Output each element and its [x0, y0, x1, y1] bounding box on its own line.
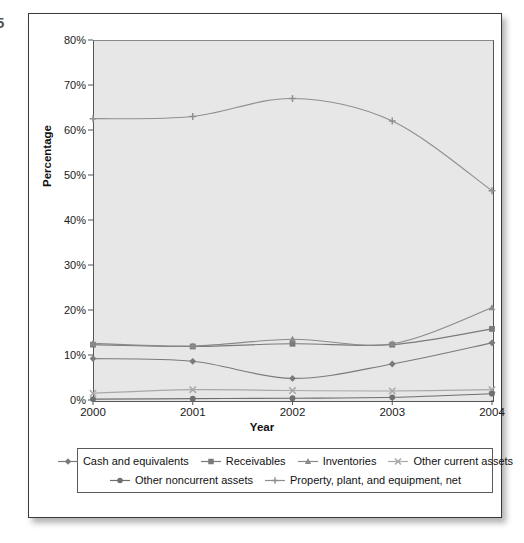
data-point-diamond: [289, 375, 296, 382]
series-3: [90, 386, 495, 396]
data-point-circle: [389, 394, 395, 400]
data-point-diamond: [65, 458, 71, 464]
legend-label: Other noncurrent assets: [135, 475, 253, 486]
data-point-circle: [489, 391, 495, 397]
series-line: [93, 343, 492, 379]
data-point-diamond: [489, 339, 496, 346]
legend-label: Inventories: [323, 456, 377, 467]
data-point-circle: [90, 396, 96, 402]
legend-label: Cash and equivalents: [83, 456, 189, 467]
data-point-circle: [117, 477, 123, 483]
legend-marker-circle-icon: [109, 475, 131, 486]
data-point-circle: [190, 396, 196, 402]
legend-label: Other current assets: [413, 456, 513, 467]
series-5: [90, 95, 496, 194]
data-point-plus: [90, 115, 97, 122]
legend-marker-square-icon: [200, 456, 222, 467]
legend-item: Other noncurrent assets: [109, 475, 253, 486]
legend-row-secondary: Other noncurrent assetsProperty, plant, …: [78, 471, 492, 490]
legend-label: Property, plant, and equipment, net: [290, 475, 461, 486]
data-point-diamond: [389, 361, 396, 368]
series-4: [90, 391, 495, 402]
chart-figure: 5 Percentage Year 0%10%20%30%40%50%60%70…: [0, 0, 524, 543]
data-point-square: [489, 326, 495, 332]
data-point-triangle: [489, 304, 496, 310]
data-point-plus: [189, 113, 196, 120]
legend-row-primary: Cash and equivalentsReceivablesInventori…: [78, 452, 492, 471]
data-point-plus: [289, 95, 296, 102]
data-point-diamond: [189, 358, 196, 365]
series-line: [93, 98, 492, 190]
legend-item: Receivables: [200, 456, 286, 467]
legend-marker-diamond-icon: [57, 456, 79, 467]
data-point-square: [208, 458, 214, 464]
legend-marker-triangle-icon: [297, 456, 319, 467]
legend-marker-plus-icon: [264, 475, 286, 486]
data-point-diamond: [90, 355, 97, 362]
legend-item: Other current assets: [387, 456, 513, 467]
chart-legend: Cash and equivalentsReceivablesInventori…: [77, 448, 493, 493]
legend-item: Cash and equivalents: [57, 456, 189, 467]
legend-marker-cross-icon: [387, 456, 409, 467]
data-point-plus: [389, 118, 396, 125]
legend-label: Receivables: [226, 456, 286, 467]
data-point-circle: [290, 395, 296, 401]
legend-item: Property, plant, and equipment, net: [264, 475, 461, 486]
data-point-plus: [272, 477, 278, 483]
legend-item: Inventories: [297, 456, 377, 467]
